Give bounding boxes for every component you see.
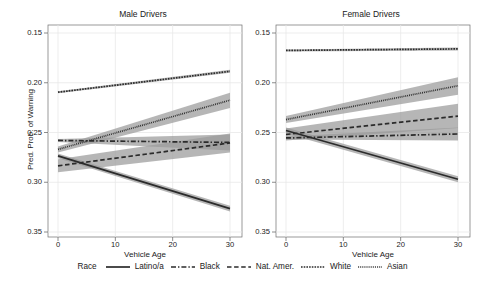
legend-item-white[interactable]: White [300, 262, 351, 271]
xtick-label: 20 [161, 240, 185, 249]
legend-item-natamer[interactable]: Nat. Amer. [226, 262, 294, 271]
legend-label: Asian [387, 262, 407, 271]
legend-swatch-finedotted-icon [357, 262, 383, 271]
xtick-label: 0 [46, 240, 70, 249]
ytick-label: 0.35 [8, 227, 42, 236]
ytick-label: 0.20 [236, 78, 270, 87]
xtick-label: 0 [274, 240, 298, 249]
legend-title: Race [78, 262, 97, 271]
legend-label: Latino/a [135, 262, 164, 271]
y-axis-label: Pred. Prob. of Warning [26, 55, 35, 205]
legend-item-latinoa[interactable]: Latino/a [105, 262, 164, 271]
legend: RaceLatino/aBlackNat. Amer.WhiteAsian [0, 262, 485, 271]
legend-swatch-dotted-icon [300, 262, 326, 271]
legend-label: White [330, 262, 351, 271]
xtick-label: 20 [389, 240, 413, 249]
xtick-label: 10 [103, 240, 127, 249]
legend-item-black[interactable]: Black [170, 262, 220, 271]
xtick-label: 30 [446, 240, 470, 249]
ytick-label: 0.25 [236, 128, 270, 137]
legend-swatch-solid-icon [105, 262, 131, 271]
x-axis-label-female: Vehicle Age [287, 250, 459, 259]
panel-title-female: Female Drivers [276, 9, 466, 19]
legend-swatch-dashdot-icon [170, 262, 196, 271]
legend-swatch-dashed-icon [226, 262, 252, 271]
legend-item-asian[interactable]: Asian [357, 262, 407, 271]
chart-figure: Male DriversFemale Drivers0.350.300.250.… [0, 0, 485, 283]
plot-panel-male [44, 25, 242, 241]
panel-title-male: Male Drivers [48, 9, 238, 19]
xtick-label: 10 [331, 240, 355, 249]
ytick-label: 0.35 [236, 227, 270, 236]
x-axis-label-male: Vehicle Age [59, 250, 231, 259]
ytick-label: 0.15 [8, 28, 42, 37]
plot-panel-female [272, 25, 470, 241]
ytick-label: 0.15 [236, 28, 270, 37]
legend-label: Nat. Amer. [256, 262, 294, 271]
xtick-label: 30 [218, 240, 242, 249]
ytick-label: 0.30 [236, 177, 270, 186]
legend-label: Black [200, 262, 220, 271]
